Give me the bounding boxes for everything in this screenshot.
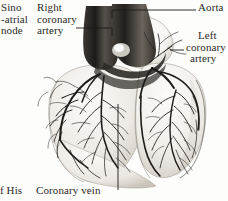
label-sino-atrial-node-line1: Sino [1,2,28,14]
label-left-coronary-artery-line3: artery [186,53,226,65]
coronary-circulation-figure: Sino -atrial node Right coronary artery … [0,0,228,201]
label-right-coronary-artery: Right coronary artery [37,2,77,37]
label-coronary-vein: Coronary vein [36,185,101,197]
label-aorta: Aorta [198,2,224,14]
label-left-coronary-artery-line1: Left [186,30,226,42]
label-bundle-of-his: f His [0,185,22,197]
label-right-coronary-artery-line3: artery [37,25,77,37]
label-sino-atrial-node-line3: node [1,25,28,37]
label-right-coronary-artery-line1: Right [37,2,77,14]
label-left-coronary-artery: Left coronary artery [186,30,226,65]
label-sino-atrial-node: Sino -atrial node [1,2,28,37]
